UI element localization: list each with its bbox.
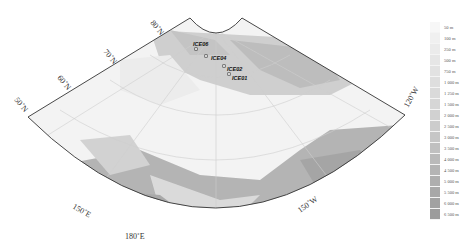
legend-item: 750 m	[430, 66, 467, 77]
legend-label: 1 250 m	[444, 91, 459, 96]
legend-swatch	[430, 22, 440, 33]
legend-swatch	[430, 176, 440, 187]
map-fill	[0, 0, 467, 249]
site-label: ICE01	[232, 75, 247, 81]
legend-label: 1 500 m	[444, 102, 459, 107]
legend-swatch	[430, 33, 440, 44]
legend-swatch	[430, 143, 440, 154]
legend-item: 5 000 m	[430, 176, 467, 187]
legend-swatch	[430, 55, 440, 66]
legend-item: 5 500 m	[430, 187, 467, 198]
latitude-label: 60˚N	[55, 74, 73, 93]
legend-item: 6 500 m	[430, 209, 467, 220]
legend-label: 4 500 m	[444, 168, 459, 173]
legend-swatch	[430, 165, 440, 176]
legend-swatch	[430, 154, 440, 165]
legend-label: 3 500 m	[444, 146, 459, 151]
longitude-label: 150˚W	[296, 194, 320, 214]
legend-item: 4 500 m	[430, 165, 467, 176]
latitude-label: 50˚N	[12, 96, 30, 115]
legend-swatch	[430, 209, 440, 220]
legend-swatch	[430, 66, 440, 77]
legend-label: 1 000 m	[444, 80, 459, 85]
legend-item: 3 000 m	[430, 132, 467, 143]
legend-label: 4 000 m	[444, 157, 459, 162]
legend-label: 5 000 m	[444, 179, 459, 184]
legend-swatch	[430, 77, 440, 88]
longitude-label: 180˚E	[125, 232, 145, 241]
longitude-label: 150˚E	[71, 202, 93, 220]
legend-label: 6 500 m	[444, 212, 459, 217]
site-label: ICE02	[227, 66, 242, 72]
legend-label: 2 000 m	[444, 113, 459, 118]
legend-item: 3 500 m	[430, 143, 467, 154]
legend-swatch	[430, 187, 440, 198]
site-marker-icon	[195, 48, 197, 50]
legend-swatch	[430, 110, 440, 121]
legend-label: 3 000 m	[444, 135, 459, 140]
legend-item: 50 m	[430, 22, 467, 33]
legend-swatch	[430, 198, 440, 209]
legend-item: 4 000 m	[430, 154, 467, 165]
legend-label: 2 500 m	[444, 124, 459, 129]
legend-label: 750 m	[444, 69, 455, 74]
legend-item: 100 m	[430, 33, 467, 44]
legend-item: 2 000 m	[430, 110, 467, 121]
legend-item: 250 m	[430, 44, 467, 55]
site-marker-icon	[223, 65, 225, 67]
legend-label: 500 m	[444, 58, 455, 63]
legend-label: 5 500 m	[444, 190, 459, 195]
longitude-label: 120˚W	[402, 85, 421, 109]
site-label: ICE06	[193, 41, 209, 47]
site-label: ICE04	[211, 55, 226, 61]
site-marker-icon	[228, 73, 230, 75]
legend-swatch	[430, 88, 440, 99]
legend-label: 6 000 m	[444, 201, 459, 206]
depth-legend: 50 m100 m250 m500 m750 m1 000 m1 250 m1 …	[430, 22, 467, 220]
site-marker-icon	[205, 55, 207, 57]
legend-swatch	[430, 132, 440, 143]
legend-label: 50 m	[444, 25, 453, 30]
legend-item: 6 000 m	[430, 198, 467, 209]
legend-swatch	[430, 121, 440, 132]
legend-item: 2 500 m	[430, 121, 467, 132]
legend-item: 500 m	[430, 55, 467, 66]
bathymetric-map: 50˚N60˚N70˚N80˚N 150˚E180˚E150˚W120˚W IC…	[0, 0, 467, 249]
legend-swatch	[430, 99, 440, 110]
legend-label: 250 m	[444, 47, 455, 52]
legend-label: 100 m	[444, 36, 455, 41]
legend-item: 1 000 m	[430, 77, 467, 88]
legend-item: 1 500 m	[430, 99, 467, 110]
legend-swatch	[430, 44, 440, 55]
legend-item: 1 250 m	[430, 88, 467, 99]
